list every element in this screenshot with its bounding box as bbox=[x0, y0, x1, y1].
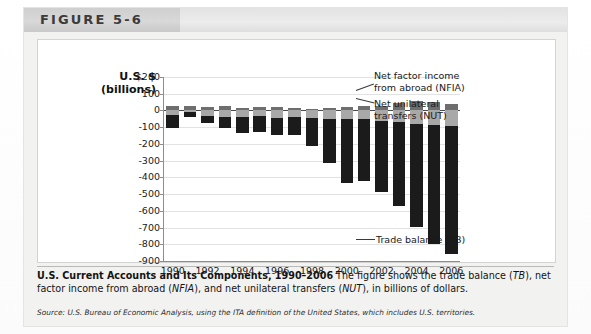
annotation-nfia-line2: from abroad (NFIA) bbox=[374, 82, 465, 94]
caption-body-3: ), and net unilateral transfers ( bbox=[194, 283, 342, 294]
bar-segment-nut bbox=[341, 110, 354, 119]
y-axis-tick-mark bbox=[160, 144, 164, 145]
bar-segment-tb bbox=[219, 117, 232, 129]
y-axis-tick-label: -700 bbox=[116, 222, 160, 233]
bar-segment-tb bbox=[271, 118, 284, 135]
bar-segment-nut bbox=[306, 110, 319, 118]
y-axis-tick-label: $200 bbox=[116, 71, 160, 82]
y-axis-tick-mark bbox=[160, 194, 164, 195]
x-axis-line bbox=[163, 261, 460, 262]
bar-segment-tb bbox=[253, 116, 266, 132]
y-axis-tick-mark bbox=[160, 177, 164, 178]
y-axis-tick-mark bbox=[160, 211, 164, 212]
figure-card: FIGURE 5-6 U.S. $ (billions) $2001000-10… bbox=[24, 8, 567, 326]
y-axis-tick-mark bbox=[160, 77, 164, 78]
bar-segment-tb bbox=[201, 116, 214, 123]
y-axis-tick-label: 100 bbox=[116, 88, 160, 99]
y-axis-tick-label: -900 bbox=[116, 255, 160, 266]
y-axis-tick-label: -100 bbox=[116, 121, 160, 132]
y-axis-tick-mark bbox=[160, 94, 164, 95]
bar-segment-nut bbox=[445, 110, 458, 125]
y-axis-tick-label: -500 bbox=[116, 188, 160, 199]
gridline bbox=[164, 228, 460, 229]
caption-title: U.S. Current Accounts and Its Components… bbox=[37, 270, 333, 281]
y-axis-tick-label: -400 bbox=[116, 171, 160, 182]
y-axis-tick-mark bbox=[160, 127, 164, 128]
leader-line-tb bbox=[356, 239, 375, 240]
figure-header-band-right bbox=[180, 8, 567, 32]
y-axis-tick-label: 0 bbox=[116, 104, 160, 115]
bar-segment-tb bbox=[393, 122, 406, 206]
y-axis-tick-mark bbox=[160, 228, 164, 229]
bar-segment-tb bbox=[375, 121, 388, 192]
caption-em-tb: TB bbox=[513, 270, 525, 281]
bar-segment-tb bbox=[428, 125, 441, 245]
y-axis-tick-label: -200 bbox=[116, 138, 160, 149]
bar-segment-tb bbox=[288, 117, 301, 135]
annotation-nfia: Net factor income from abroad (NFIA) bbox=[374, 70, 465, 93]
caption-body-4: ), in billions of dollars. bbox=[362, 283, 468, 294]
annotation-nfia-line1: Net factor income bbox=[374, 70, 465, 82]
caption-em-nfia: NFIA bbox=[172, 283, 194, 294]
bar-segment-tb bbox=[166, 115, 179, 128]
bar-segment-nut bbox=[323, 110, 336, 118]
bar-segment-tb bbox=[358, 119, 371, 181]
bar-segment-nut bbox=[358, 110, 371, 119]
gridline bbox=[164, 94, 460, 95]
bar-segment-tb bbox=[306, 118, 319, 146]
caption-divider bbox=[37, 266, 554, 267]
annotation-nut-line2: transfers (NUT) bbox=[374, 110, 447, 122]
annotation-nut: Net unilateral transfers (NUT) bbox=[374, 98, 447, 121]
y-axis-tick-label: -600 bbox=[116, 205, 160, 216]
chart-panel: U.S. $ (billions) $2001000-100-200-300-4… bbox=[37, 39, 556, 263]
bar-segment-tb bbox=[236, 117, 249, 133]
bar-segment-nut bbox=[271, 110, 284, 117]
figure-caption: U.S. Current Accounts and Its Components… bbox=[37, 270, 554, 295]
annotation-tb: Trade balance (TB) bbox=[376, 234, 465, 246]
bar-segment-tb bbox=[184, 112, 197, 117]
figure-source: Source: U.S. Bureau of Economic Analysis… bbox=[37, 308, 554, 317]
y-axis-tick-label: -300 bbox=[116, 155, 160, 166]
y-axis-tick-mark bbox=[160, 244, 164, 245]
bar-segment-tb bbox=[410, 124, 423, 227]
bar-segment-tb bbox=[323, 119, 336, 163]
bar-segment-nut bbox=[288, 110, 301, 117]
y-axis-tick-label: -800 bbox=[116, 238, 160, 249]
caption-body-1: The figure shows the trade balance ( bbox=[333, 270, 513, 281]
annotation-nut-line1: Net unilateral bbox=[374, 98, 447, 110]
caption-em-nut: NUT bbox=[342, 283, 362, 294]
bar-segment-tb bbox=[341, 119, 354, 183]
figure-root: FIGURE 5-6 U.S. $ (billions) $2001000-10… bbox=[0, 0, 591, 334]
figure-label: FIGURE 5-6 bbox=[40, 12, 143, 27]
y-axis-tick-mark bbox=[160, 110, 164, 111]
y-axis-line bbox=[163, 77, 164, 261]
y-axis-tick-mark bbox=[160, 161, 164, 162]
